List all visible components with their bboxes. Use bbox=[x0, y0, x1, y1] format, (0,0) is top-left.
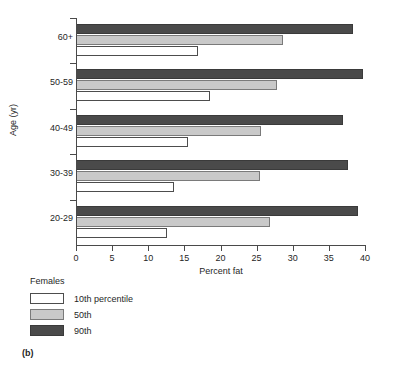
bar-60+-p90 bbox=[76, 24, 353, 34]
x-tick-10 bbox=[148, 246, 149, 251]
x-tick-label-25: 25 bbox=[252, 253, 262, 263]
legend-title: Females bbox=[30, 276, 133, 286]
x-tick-label-5: 5 bbox=[110, 253, 115, 263]
legend-item-p10: 10th percentile bbox=[30, 291, 133, 306]
x-tick-20 bbox=[221, 246, 222, 251]
legend-swatch-p50 bbox=[30, 309, 64, 320]
bar-60+-p10 bbox=[76, 46, 198, 56]
y-tick-label-50-59: 50-59 bbox=[50, 77, 73, 87]
y-tick-1 bbox=[70, 63, 76, 64]
x-tick-label-0: 0 bbox=[73, 253, 78, 263]
x-tick-label-15: 15 bbox=[179, 253, 189, 263]
bar-30-39-p10 bbox=[76, 182, 174, 192]
legend-swatch-p90 bbox=[30, 325, 64, 336]
bar-30-39-p50 bbox=[76, 171, 260, 181]
y-tick-0 bbox=[70, 18, 76, 19]
y-tick-4 bbox=[70, 200, 76, 201]
y-tick-label-20-29: 20-29 bbox=[50, 213, 73, 223]
x-tick-25 bbox=[257, 246, 258, 251]
legend-swatch-p10 bbox=[30, 293, 64, 304]
y-axis-line bbox=[76, 18, 77, 246]
x-tick-30 bbox=[293, 246, 294, 251]
plot-area bbox=[76, 18, 365, 245]
x-tick-40 bbox=[365, 246, 366, 251]
legend-label-p90: 90th bbox=[74, 326, 92, 336]
x-tick-label-10: 10 bbox=[143, 253, 153, 263]
bar-50-59-p50 bbox=[76, 80, 277, 90]
x-tick-label-20: 20 bbox=[215, 253, 225, 263]
legend-item-p50: 50th bbox=[30, 307, 133, 322]
bar-40-49-p50 bbox=[76, 126, 261, 136]
legend-label-p10: 10th percentile bbox=[74, 294, 133, 304]
y-tick-label-60+: 60+ bbox=[58, 32, 73, 42]
x-tick-label-40: 40 bbox=[360, 253, 370, 263]
x-tick-15 bbox=[184, 246, 185, 251]
bar-20-29-p50 bbox=[76, 217, 270, 227]
legend: Females 10th percentile50th90th bbox=[30, 276, 133, 339]
y-axis-title: Age (yr) bbox=[8, 104, 18, 136]
x-tick-0 bbox=[76, 246, 77, 251]
bar-40-49-p10 bbox=[76, 137, 188, 147]
bar-50-59-p10 bbox=[76, 91, 210, 101]
legend-label-p50: 50th bbox=[74, 310, 92, 320]
bar-30-39-p90 bbox=[76, 160, 348, 170]
legend-item-p90: 90th bbox=[30, 323, 133, 338]
bar-40-49-p90 bbox=[76, 115, 343, 125]
y-tick-label-30-39: 30-39 bbox=[50, 168, 73, 178]
y-tick-2 bbox=[70, 109, 76, 110]
legend-items: 10th percentile50th90th bbox=[30, 291, 133, 338]
panel-label: (b) bbox=[22, 348, 34, 358]
bar-20-29-p90 bbox=[76, 206, 358, 216]
y-tick-label-40-49: 40-49 bbox=[50, 123, 73, 133]
bar-20-29-p10 bbox=[76, 228, 167, 238]
x-tick-label-35: 35 bbox=[324, 253, 334, 263]
x-tick-label-30: 30 bbox=[288, 253, 298, 263]
bar-60+-p50 bbox=[76, 35, 283, 45]
bar-50-59-p90 bbox=[76, 69, 363, 79]
y-tick-3 bbox=[70, 154, 76, 155]
x-tick-35 bbox=[329, 246, 330, 251]
figure-panel-b: 0510152025303540 60+50-5940-4930-3920-29… bbox=[0, 0, 395, 374]
x-axis-title: Percent fat bbox=[76, 266, 366, 276]
x-tick-5 bbox=[112, 246, 113, 251]
